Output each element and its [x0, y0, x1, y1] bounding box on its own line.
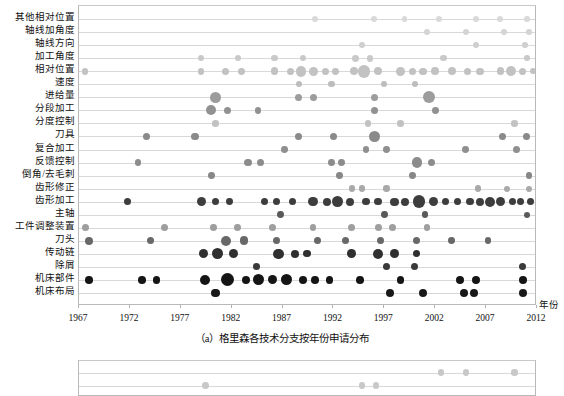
- data-point: [369, 131, 380, 142]
- data-point: [332, 196, 343, 207]
- y-axis-label: 加工角度: [35, 52, 75, 62]
- y-axis-label: 速度: [55, 78, 75, 88]
- plot-area-a: [78, 5, 536, 305]
- data-point: [323, 198, 331, 206]
- figure-caption-a: （a）格里森各技术分支按年份申请分布: [0, 330, 564, 345]
- data-point: [273, 198, 280, 205]
- data-point: [208, 172, 215, 179]
- data-point: [499, 133, 506, 140]
- data-point: [485, 197, 495, 207]
- data-point: [326, 276, 334, 284]
- data-point: [273, 237, 280, 244]
- data-point: [212, 248, 223, 259]
- data-point: [82, 224, 89, 231]
- data-point: [381, 211, 388, 218]
- gridline: [79, 110, 535, 111]
- gridline: [79, 228, 535, 229]
- data-point: [466, 198, 474, 206]
- data-point: [200, 275, 210, 285]
- data-point: [295, 133, 302, 140]
- data-point: [198, 68, 205, 75]
- data-point: [419, 289, 427, 297]
- gridline: [79, 386, 535, 387]
- data-point: [210, 92, 221, 103]
- data-point: [428, 159, 435, 166]
- data-point: [383, 185, 389, 191]
- x-tick-label: 1987: [262, 313, 302, 323]
- data-point: [448, 237, 455, 244]
- y-axis-label: 刀具: [55, 130, 75, 140]
- y-axis-label: 分度控制: [35, 117, 75, 127]
- x-tick-mark: [282, 305, 283, 308]
- gridline: [79, 58, 535, 59]
- x-tick-label: 1972: [109, 313, 149, 323]
- x-tick-label: 2007: [465, 313, 505, 323]
- data-point: [390, 198, 398, 206]
- data-point: [424, 224, 431, 231]
- data-point: [472, 276, 480, 284]
- gridline: [79, 215, 535, 216]
- y-axis-label: 轴线方向: [35, 39, 75, 49]
- data-point: [191, 133, 198, 140]
- data-point: [85, 237, 93, 245]
- data-point: [432, 107, 439, 114]
- data-point: [524, 55, 530, 61]
- data-point: [291, 250, 299, 258]
- data-point: [411, 263, 418, 270]
- data-point: [273, 249, 283, 259]
- y-axis-label: 其他相对位置: [15, 13, 75, 23]
- data-point: [229, 249, 238, 258]
- data-point: [506, 66, 516, 76]
- data-point: [422, 211, 429, 218]
- data-point: [308, 197, 318, 207]
- data-point: [281, 146, 288, 153]
- figure-page: 其他相对位置轴线加角度轴线方向加工角度相对位置速度进给量分段加工分度控制刀具复合…: [0, 0, 564, 396]
- data-point: [358, 65, 371, 78]
- y-axis-label: 齿形加工: [35, 196, 75, 206]
- data-point: [296, 81, 302, 87]
- data-point: [526, 186, 532, 192]
- x-tick-label: 1977: [160, 313, 200, 323]
- data-point: [365, 120, 371, 126]
- x-tick-mark: [485, 305, 486, 308]
- data-point: [261, 198, 268, 205]
- data-point: [332, 68, 339, 75]
- data-point: [240, 236, 249, 245]
- data-point: [348, 224, 355, 231]
- plot-area-b: [78, 360, 536, 396]
- data-point: [456, 276, 464, 284]
- data-point: [303, 250, 310, 257]
- data-point: [242, 276, 250, 284]
- data-point: [412, 157, 422, 167]
- y-axis-label: 倒角/去毛刺: [22, 170, 75, 180]
- data-point: [271, 67, 279, 75]
- x-tick-mark: [434, 305, 435, 308]
- gridline: [79, 97, 535, 98]
- data-point: [519, 276, 527, 284]
- data-point: [295, 94, 302, 101]
- data-point: [310, 224, 317, 231]
- data-point: [322, 68, 329, 75]
- x-tick-label: 1992: [312, 313, 352, 323]
- data-point: [423, 91, 435, 103]
- data-point: [513, 146, 520, 153]
- data-point: [135, 159, 142, 166]
- data-point: [311, 276, 319, 284]
- data-point: [509, 198, 516, 205]
- data-point: [338, 159, 345, 166]
- data-point: [289, 198, 296, 205]
- data-point: [475, 185, 481, 191]
- y-axis-label: 刀头: [55, 235, 75, 245]
- gridline: [79, 19, 535, 20]
- data-point: [314, 237, 321, 244]
- data-point: [362, 198, 370, 206]
- data-point: [383, 263, 390, 270]
- data-point: [511, 369, 517, 375]
- data-point: [221, 236, 231, 246]
- data-point: [463, 369, 469, 375]
- x-tick-label: 2002: [414, 313, 454, 323]
- data-point: [476, 198, 484, 206]
- y-axis-label: 机床部件: [35, 274, 75, 284]
- data-point: [363, 146, 370, 153]
- data-point: [147, 237, 154, 244]
